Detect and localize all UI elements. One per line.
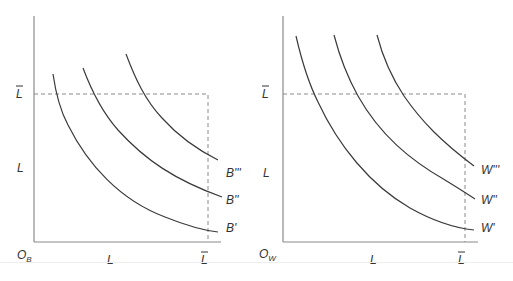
curve-b-prime xyxy=(53,74,218,232)
label-b-prime: B' xyxy=(226,221,237,235)
label-b-triple-prime: B''' xyxy=(226,166,242,180)
label-w-triple-prime: W''' xyxy=(481,163,500,177)
curve-w-triple-prime xyxy=(377,35,474,166)
right-y-label: L xyxy=(263,166,270,180)
label-w-prime: W' xyxy=(481,221,495,235)
bottom-rule xyxy=(0,262,513,263)
right-endowment-box xyxy=(283,94,465,242)
label-w-double-prime: W'' xyxy=(481,193,498,207)
left-y-label: L xyxy=(17,161,24,175)
curve-b-triple-prime xyxy=(126,54,218,160)
right-y-lbar: L xyxy=(262,87,269,101)
curve-w-double-prime xyxy=(334,35,475,199)
left-x-label: L xyxy=(107,253,114,267)
right-x-lbar: L xyxy=(458,253,465,267)
left-y-lbar: L xyxy=(16,87,23,101)
left-x-lbar: L xyxy=(201,253,208,267)
right-panel: L L OW L L W''' W'' W' xyxy=(259,16,500,267)
curve-b-double-prime xyxy=(83,68,222,197)
right-x-label: L xyxy=(370,253,377,267)
isoquant-diagrams: L L OB L L B''' B'' B' L L OW L L W''' W… xyxy=(0,0,513,281)
label-b-double-prime: B'' xyxy=(226,193,239,207)
left-endowment-box xyxy=(34,94,208,242)
right-origin-label: OW xyxy=(259,247,277,263)
left-panel: L L OB L L B''' B'' B' xyxy=(16,16,242,267)
